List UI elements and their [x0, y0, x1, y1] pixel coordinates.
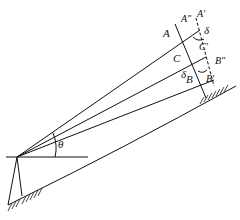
- label-b: B: [186, 73, 193, 85]
- label-a-prime: A': [196, 8, 206, 19]
- tripod-leg-left: [8, 157, 17, 205]
- delta-arc-bottom: [198, 70, 207, 72]
- label-delta-top: δ: [204, 24, 210, 36]
- label-theta: θ: [58, 138, 64, 150]
- label-a-double-prime: A": [180, 13, 192, 24]
- stadia-diagram: A A" A' δ C C' δ B" B B' θ: [0, 0, 240, 220]
- tripod-leg-right: [17, 157, 22, 196]
- label-a: A: [162, 27, 170, 39]
- sight-line-b: [17, 80, 214, 157]
- sight-line-a: [17, 30, 200, 157]
- diagram-canvas: A A" A' δ C C' δ B" B B' θ: [0, 0, 240, 220]
- sight-line-c: [17, 57, 206, 157]
- delta-arc-top: [193, 37, 204, 40]
- ground-line: [8, 86, 236, 205]
- label-c: C: [173, 52, 181, 64]
- label-b-double-prime: B": [215, 55, 226, 66]
- label-c-prime: C': [199, 41, 209, 52]
- label-b-prime: B': [206, 73, 215, 84]
